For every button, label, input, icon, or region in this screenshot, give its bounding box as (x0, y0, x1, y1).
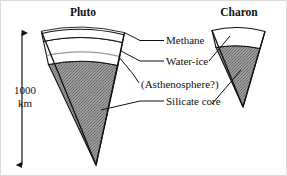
label-methane: Methane (166, 34, 205, 46)
scale-value: 1000 (14, 84, 37, 96)
label-water-ice: Water-ice (166, 55, 208, 67)
leader-water-ice-pluto (121, 51, 164, 61)
figure-canvas: Pluto Charon Methane Water-ice (Asthenos… (0, 0, 287, 176)
leader-asthenosphere (119, 57, 139, 83)
scale-unit: km (18, 97, 33, 109)
pluto-title: Pluto (70, 6, 96, 18)
charon-silicate-core (216, 46, 260, 107)
pluto-wedge-group (41, 27, 124, 165)
leader-methane (125, 33, 165, 41)
label-asthenosphere: (Asthenosphere?) (141, 78, 219, 91)
pluto-charon-interior-figure: Pluto Charon Methane Water-ice (Asthenos… (0, 0, 287, 176)
leader-silicate-core-pluto (101, 101, 164, 110)
label-silicate-core: Silicate core (166, 95, 221, 107)
charon-water-ice-layer (212, 27, 265, 48)
charon-title: Charon (220, 6, 258, 18)
